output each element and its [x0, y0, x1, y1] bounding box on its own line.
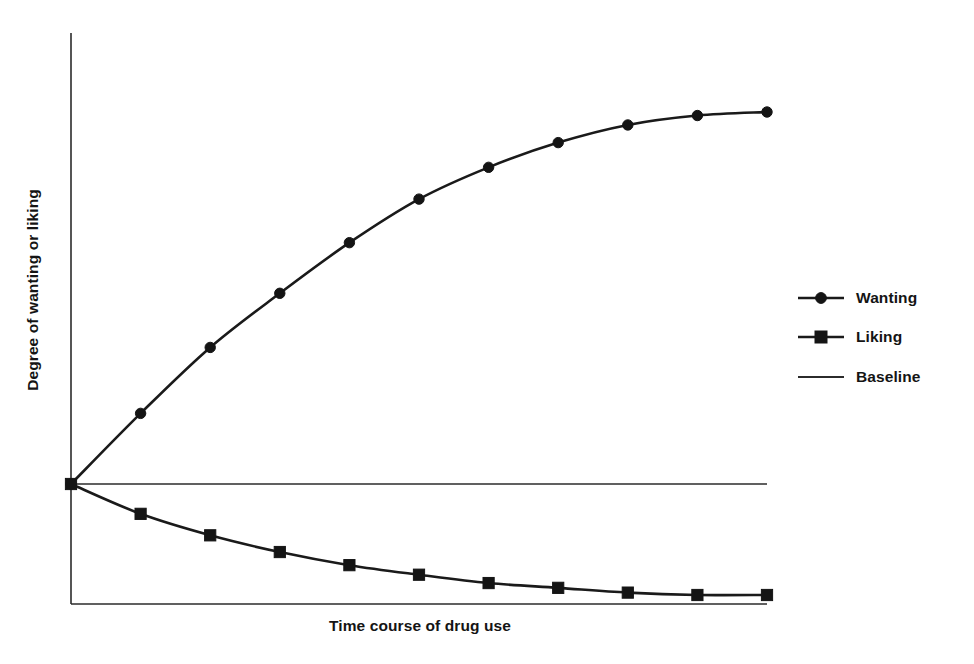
y-axis-title: Degree of wanting or liking	[24, 189, 41, 391]
series-wanting-markers	[66, 107, 772, 489]
legend-item-wanting[interactable]: Wanting	[798, 289, 917, 306]
legend-item-baseline[interactable]: Baseline	[798, 368, 921, 385]
chart-legend: Wanting Liking Baseline	[798, 289, 921, 385]
data-point-marker	[135, 508, 146, 519]
data-point-marker	[205, 530, 216, 541]
legend-label-baseline: Baseline	[856, 368, 921, 385]
data-point-marker	[275, 288, 285, 298]
data-point-marker	[414, 194, 424, 204]
data-point-marker	[692, 589, 703, 600]
data-point-marker	[274, 546, 285, 557]
data-point-marker	[344, 237, 354, 247]
legend-label-wanting: Wanting	[856, 289, 917, 306]
data-point-marker	[553, 137, 563, 147]
data-point-marker	[623, 120, 633, 130]
data-point-marker	[413, 569, 424, 580]
data-point-marker	[761, 589, 772, 600]
chart-figure: Degree of wanting or liking Time course …	[0, 0, 974, 664]
circle-marker-icon	[816, 293, 827, 304]
series-liking-markers	[65, 478, 772, 600]
data-point-marker	[762, 107, 772, 117]
data-point-marker	[65, 478, 76, 489]
legend-label-liking: Liking	[856, 328, 902, 345]
legend-item-liking[interactable]: Liking	[798, 328, 902, 345]
x-axis-title: Time course of drug use	[329, 617, 511, 634]
data-point-marker	[483, 577, 494, 588]
series-wanting-line	[71, 112, 767, 484]
data-point-marker	[483, 162, 493, 172]
square-marker-icon	[815, 331, 827, 343]
data-point-marker	[622, 587, 633, 598]
data-point-marker	[135, 408, 145, 418]
data-point-marker	[692, 110, 702, 120]
data-point-marker	[344, 560, 355, 571]
data-point-marker	[205, 342, 215, 352]
data-point-marker	[553, 582, 564, 593]
chart-plot-area: Degree of wanting or liking Time course …	[0, 0, 974, 664]
